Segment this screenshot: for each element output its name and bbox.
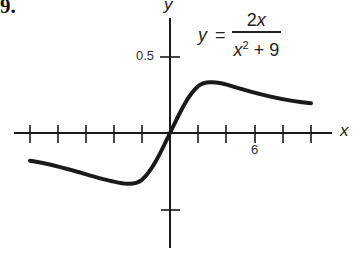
fraction-numerator: 2x [243,10,270,31]
denominator-constant: + 9 [249,40,280,60]
equation-equals: = [215,25,226,46]
function-equation: y = 2x x2 + 9 [198,10,281,61]
fraction-denominator: x2 + 9 [232,33,282,61]
y-axis-label: y [164,0,173,15]
x-axis-label: x [340,121,349,141]
function-plot [0,0,359,267]
y-tick-label-0-5: 0.5 [136,48,154,63]
numerator-coefficient: 2 [247,10,257,30]
equation-fraction: 2x x2 + 9 [232,10,282,61]
x-tick-label-6: 6 [251,142,258,157]
numerator-variable: x [257,10,266,30]
denominator-variable: x [234,40,243,60]
equation-lhs: y [198,25,207,46]
